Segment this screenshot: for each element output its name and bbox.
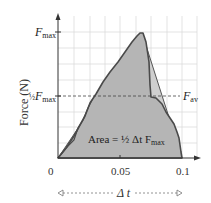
force-time-chart: Fmax ½Fmax Fav Area = ½ Δt Fmax 0 0.05 0…	[0, 0, 211, 203]
delta-t-span: Δ t	[58, 186, 182, 200]
left-arrow-icon	[58, 190, 63, 196]
fav-label: Fav	[182, 89, 198, 104]
x-axis-arrow-icon	[194, 156, 201, 161]
fmax-label: Fmax	[34, 25, 56, 40]
y-axis-label: Force (N)	[17, 73, 32, 133]
y-axis-arrow-icon	[56, 13, 61, 20]
x-tick-005: 0.05	[111, 165, 131, 177]
x-tick-01: 0.1	[176, 165, 190, 177]
right-arrow-icon	[177, 190, 182, 196]
half-fmax-label: ½Fmax	[29, 89, 56, 104]
delta-t-label: Δ t	[116, 186, 131, 200]
x-tick-0: 0	[48, 165, 54, 177]
